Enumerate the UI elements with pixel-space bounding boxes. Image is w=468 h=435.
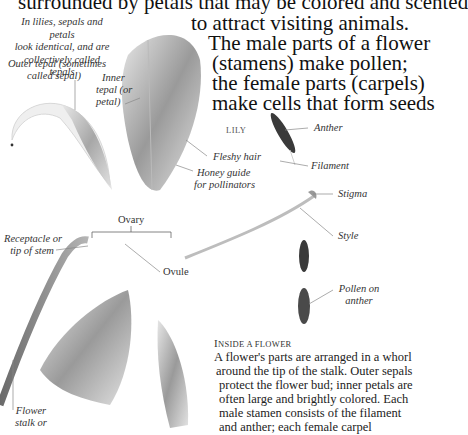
lower-petal-right xyxy=(158,320,189,428)
label-flower-stalk-line1: Flower xyxy=(14,405,48,417)
label-pollen-line2: anther xyxy=(334,295,384,307)
label-stigma: Stigma xyxy=(338,188,367,200)
label-outer-tepal-line1: Outer tepal (sometimes xyxy=(8,58,100,70)
label-anther: Anther xyxy=(314,122,343,134)
caption-line-4: often large and brightly colored. Each xyxy=(219,392,408,407)
label-style: Style xyxy=(338,230,358,242)
label-receptacle-line1: Receptacle or xyxy=(4,233,60,245)
label-honey-guide-line2: for pollinators xyxy=(194,179,255,191)
caption-title-rest: NSIDE A FLOWER xyxy=(218,339,292,349)
lower-petal-left xyxy=(40,290,131,405)
note-line-2: look identical, and are xyxy=(12,41,112,54)
label-ovary: Ovary xyxy=(118,214,144,226)
label-honey-guide-line1: Honey guide xyxy=(194,167,255,179)
caption-line-2: around the tip of the stalk. Outer sepal… xyxy=(216,364,412,379)
caption-line-6: and anther; each female carpel xyxy=(219,420,372,435)
label-pollen-line1: Pollen on xyxy=(334,283,384,295)
ovary-bracket xyxy=(92,226,171,238)
label-receptacle-line2: tip of stem xyxy=(4,245,60,257)
label-outer-tepal: Outer tepal (sometimes called sepal) xyxy=(8,58,100,82)
anther-drawing xyxy=(267,111,299,156)
inner-tepal-drawing xyxy=(122,35,201,191)
label-inner-tepal-line1: Inner xyxy=(96,72,132,84)
label-fleshy-hair: Fleshy hair xyxy=(213,151,261,163)
note-line-1: In lilies, sepals and petals xyxy=(12,16,112,41)
label-inner-tepal-line3: petal) xyxy=(96,96,132,108)
label-inner-tepal-line2: tepal (or xyxy=(96,84,132,96)
pollen-anther-drawing xyxy=(298,288,310,324)
intro-line-6: make cells that form seeds xyxy=(212,93,435,114)
label-lily: Lily xyxy=(226,125,247,135)
anther-side-drawing xyxy=(299,240,309,272)
label-honey-guide: Honey guide for pollinators xyxy=(194,167,255,191)
label-filament: Filament xyxy=(311,160,349,172)
label-receptacle: Receptacle or tip of stem xyxy=(4,233,60,257)
label-flower-stalk: Flower stalk or xyxy=(14,405,48,429)
outer-tepal-drawing xyxy=(11,103,112,190)
label-ovule: Ovule xyxy=(163,266,189,278)
caption-line-3: protect the flower bud; inner petals are xyxy=(219,378,413,393)
caption-line-5: male stamen consists of the filament xyxy=(219,406,401,421)
label-inner-tepal: Inner tepal (or petal) xyxy=(96,72,132,108)
label-flower-stalk-line2: stalk or xyxy=(14,417,48,429)
style-drawing xyxy=(185,196,314,258)
caption-title: INSIDE A FLOWER xyxy=(214,337,292,349)
caption-line-1: A flower's parts are arranged in a whorl xyxy=(214,350,412,365)
label-outer-tepal-line2: called sepal) xyxy=(8,70,100,82)
label-pollen-on-anther: Pollen on anther xyxy=(334,283,384,307)
